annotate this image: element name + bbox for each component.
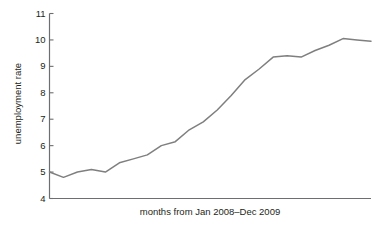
y-axis-tick-label: 6 bbox=[26, 141, 46, 151]
y-axis-tick-label: 4 bbox=[26, 194, 46, 204]
y-axis-tick-label: 8 bbox=[26, 88, 46, 98]
y-axis-tick-label: 9 bbox=[26, 61, 46, 71]
y-axis-tick-label: 10 bbox=[26, 35, 46, 45]
chart-canvas bbox=[0, 0, 373, 229]
y-axis-tick-label: 5 bbox=[26, 167, 46, 177]
y-axis-tick-label: 11 bbox=[26, 9, 46, 19]
y-axis-title: unemployment rate bbox=[12, 39, 23, 169]
x-axis-title: months from Jan 2008–Dec 2009 bbox=[49, 206, 371, 217]
y-axis-tick-label: 7 bbox=[26, 114, 46, 124]
unemployment-rate-series-line bbox=[50, 39, 372, 178]
unemployment-rate-line-chart: 4567891011 unemployment rate months from… bbox=[0, 0, 373, 229]
